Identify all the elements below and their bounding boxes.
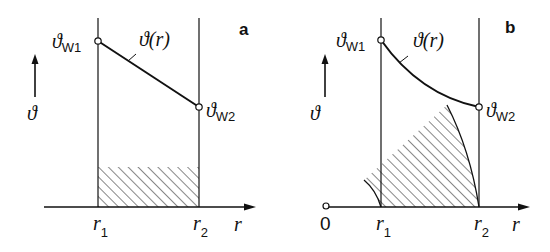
y-axis-arrow xyxy=(322,54,329,97)
r2-label: r2 xyxy=(193,212,208,240)
inner-wall-temp-label: ϑW1 xyxy=(336,29,365,54)
panel-label-b: b xyxy=(505,18,515,37)
curve-label: ϑ(r) xyxy=(139,28,170,51)
outer-wall-temp-label: ϑW2 xyxy=(486,99,515,124)
r1-label: r1 xyxy=(93,212,108,240)
y-axis-label: ϑ xyxy=(27,102,38,124)
temperature-profile-diagram: ϑ ϑ(r) ϑW1 ϑW2 r1 r2 r a ϑ xyxy=(0,0,550,252)
curve-label-leader xyxy=(128,54,136,61)
y-axis-label: ϑ xyxy=(310,102,321,124)
panel-label-a: a xyxy=(239,20,249,39)
y-axis-arrow xyxy=(32,54,39,97)
inner-wall-point xyxy=(95,38,101,44)
hatched-wall-region xyxy=(98,167,199,207)
origin-point xyxy=(323,203,329,209)
panel-a: ϑ ϑ(r) ϑW1 ϑW2 r1 r2 r a xyxy=(27,18,256,240)
temperature-profile-line xyxy=(98,41,199,107)
r2-label: r2 xyxy=(474,212,489,240)
outer-wall-point xyxy=(476,104,482,110)
x-axis-label: r xyxy=(234,213,242,235)
origin-label: 0 xyxy=(320,213,331,234)
outer-wall-point xyxy=(196,104,202,110)
inner-wall-point xyxy=(378,37,384,43)
x-axis-label: r xyxy=(512,213,520,235)
r1-label: r1 xyxy=(376,212,391,240)
curve-label: ϑ(r) xyxy=(413,29,444,52)
panel-b: ϑ 0 ϑ(r) ϑW1 ϑW2 r1 r2 r b xyxy=(310,18,530,240)
inner-wall-temp-label: ϑW1 xyxy=(52,30,81,55)
outer-wall-temp-label: ϑW2 xyxy=(206,99,235,124)
curve-label-leader xyxy=(399,56,408,63)
